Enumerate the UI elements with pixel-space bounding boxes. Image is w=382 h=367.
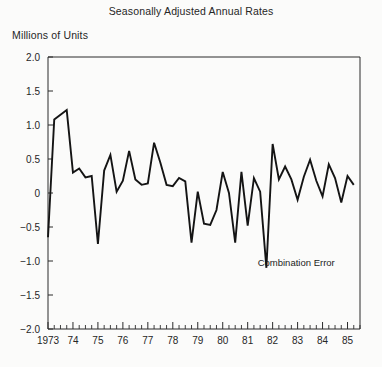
annotation-label: Combination Error xyxy=(258,257,335,268)
x-tick-label: 85 xyxy=(342,335,354,346)
x-tick-label: 77 xyxy=(142,335,154,346)
chart-annotations: Combination Error xyxy=(258,257,335,268)
x-tick-label: 82 xyxy=(267,335,279,346)
y-tick-label: −1.0 xyxy=(20,256,40,267)
chart-figure: Seasonally Adjusted Annual Rates Million… xyxy=(0,0,382,367)
x-tick-label: 78 xyxy=(167,335,179,346)
y-tick-label: 0 xyxy=(34,188,40,199)
x-tick-label: 83 xyxy=(292,335,304,346)
y-tick-label: 1.5 xyxy=(26,86,40,97)
y-tick-label: −0.5 xyxy=(20,222,40,233)
y-tick-label: −1.5 xyxy=(20,290,40,301)
y-tick-label: 0.5 xyxy=(26,154,40,165)
x-tick-label: 75 xyxy=(92,335,104,346)
x-tick-label: 80 xyxy=(217,335,229,346)
x-axis-ticks: 1973747576777879808182838485 xyxy=(37,322,360,346)
y-tick-label: 2.0 xyxy=(26,52,40,63)
y-tick-label: 1.0 xyxy=(26,120,40,131)
x-tick-label: 76 xyxy=(117,335,129,346)
x-tick-label: 74 xyxy=(67,335,79,346)
series-line xyxy=(48,110,354,268)
y-tick-label: −2.0 xyxy=(20,324,40,335)
x-tick-label: 81 xyxy=(242,335,254,346)
x-tick-label: 79 xyxy=(192,335,204,346)
data-series-line xyxy=(48,110,354,268)
x-tick-label: 1973 xyxy=(37,335,60,346)
plot-frame xyxy=(48,57,360,329)
plot-canvas: 2.01.51.00.50−0.5−1.0−1.5−2.0 1973747576… xyxy=(0,0,382,367)
x-tick-label: 84 xyxy=(317,335,329,346)
